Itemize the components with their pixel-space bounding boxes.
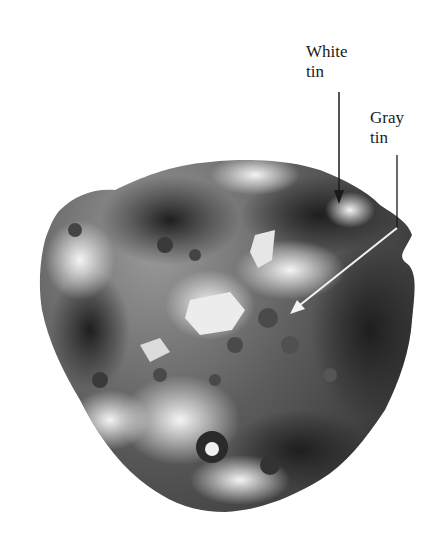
tin-specimen-figure: White tin Gray tin <box>0 0 446 545</box>
white-tin-label-line2: tin <box>306 62 348 82</box>
gray-tin-label-line1: Gray <box>370 108 404 128</box>
white-tin-label-line1: White <box>306 42 348 62</box>
gray-tin-label: Gray tin <box>370 108 404 148</box>
white-tin-label: White tin <box>306 42 348 82</box>
tin-specimen-photo <box>0 0 446 545</box>
specimen-surface <box>0 0 446 545</box>
gray-tin-label-line2: tin <box>370 128 404 148</box>
